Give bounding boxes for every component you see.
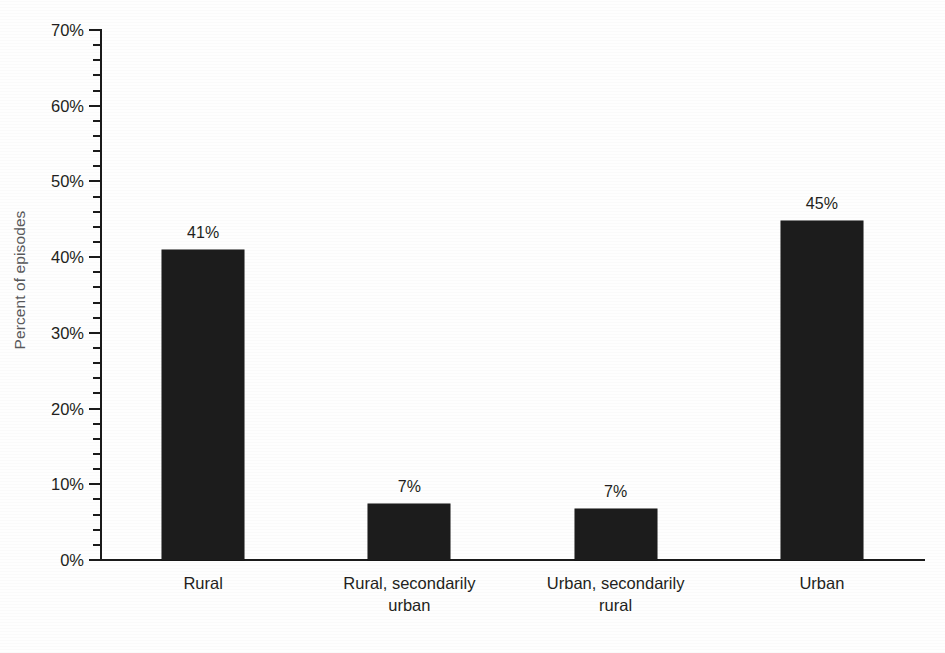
y-tick-minor <box>93 392 100 394</box>
y-tick-minor <box>93 302 100 304</box>
bar-group[interactable]: 45% <box>719 30 925 560</box>
bar-value-label: 41% <box>187 224 219 242</box>
y-tick-major <box>89 180 100 182</box>
y-tick-minor <box>93 59 100 61</box>
y-axis-ticks: 0%10%20%30%40%50%60%70% <box>0 0 100 653</box>
category-label: Urban, secondarily rural <box>513 572 719 617</box>
y-tick-minor <box>93 165 100 167</box>
y-tick-label: 30% <box>51 323 84 342</box>
y-tick-label: 50% <box>51 172 84 191</box>
y-tick-major <box>89 29 100 31</box>
y-tick-minor <box>93 44 100 46</box>
plot-area: 41%7%7%45% <box>100 30 925 560</box>
y-tick-minor <box>93 90 100 92</box>
y-tick-major <box>89 332 100 334</box>
y-tick-minor <box>93 423 100 425</box>
y-tick-minor <box>93 226 100 228</box>
y-tick-minor <box>93 317 100 319</box>
bar-value-label: 7% <box>398 478 421 496</box>
category-label: Urban <box>719 572 925 594</box>
y-tick-minor <box>93 347 100 349</box>
y-tick-major <box>89 559 100 561</box>
bar[interactable] <box>368 504 450 560</box>
bar[interactable] <box>781 221 863 560</box>
y-tick-major <box>89 256 100 258</box>
y-tick-minor <box>93 211 100 213</box>
y-tick-minor <box>93 362 100 364</box>
y-tick-minor <box>93 286 100 288</box>
y-tick-minor <box>93 529 100 531</box>
y-tick-minor <box>93 74 100 76</box>
bar[interactable] <box>162 250 244 560</box>
bar-group[interactable]: 41% <box>100 30 306 560</box>
y-tick-minor <box>93 241 100 243</box>
y-tick-minor <box>93 468 100 470</box>
y-tick-label: 60% <box>51 96 84 115</box>
y-tick-minor <box>93 271 100 273</box>
y-tick-label: 70% <box>51 21 84 40</box>
y-tick-label: 0% <box>60 551 84 570</box>
y-tick-label: 40% <box>51 248 84 267</box>
y-tick-major <box>89 105 100 107</box>
category-label: Rural, secondarily urban <box>306 572 512 617</box>
y-tick-minor <box>93 150 100 152</box>
y-tick-minor <box>93 498 100 500</box>
y-tick-minor <box>93 544 100 546</box>
bar-group[interactable]: 7% <box>513 30 719 560</box>
y-tick-major <box>89 483 100 485</box>
y-tick-minor <box>93 438 100 440</box>
bar-chart-figure: Percent of episodes 0%10%20%30%40%50%60%… <box>0 0 945 653</box>
y-tick-minor <box>93 135 100 137</box>
y-tick-minor <box>93 514 100 516</box>
y-tick-label: 10% <box>51 475 84 494</box>
y-tick-minor <box>93 453 100 455</box>
y-tick-minor <box>93 377 100 379</box>
y-tick-minor <box>93 196 100 198</box>
category-label: Rural <box>100 572 306 594</box>
y-tick-minor <box>93 120 100 122</box>
bar-value-label: 7% <box>604 483 627 501</box>
y-tick-major <box>89 408 100 410</box>
y-tick-label: 20% <box>51 399 84 418</box>
bar-value-label: 45% <box>806 195 838 213</box>
bar-group[interactable]: 7% <box>306 30 512 560</box>
bar[interactable] <box>575 509 657 560</box>
